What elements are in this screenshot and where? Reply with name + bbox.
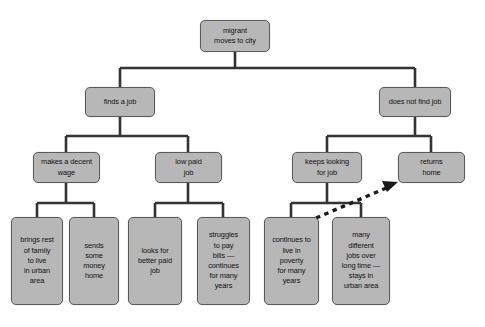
- node-label: low paid job: [173, 157, 203, 177]
- node-label: finds a job: [102, 97, 139, 107]
- node-makes-a-decent-wage[interactable]: makes a decent wage: [33, 152, 100, 183]
- node-label: many different jobs over long time — sta…: [340, 230, 382, 291]
- node-keeps-looking-for-job[interactable]: keeps looking for job: [292, 152, 362, 183]
- node-label: migrant moves to city: [212, 26, 258, 46]
- node-label: sends some money home: [81, 241, 107, 282]
- flow-chart-diagram: migrant moves to city finds a job does n…: [0, 0, 485, 327]
- node-label: struggles to pay bills — continues for m…: [206, 230, 241, 291]
- node-sends-some-money-home[interactable]: sends some money home: [69, 217, 119, 305]
- node-low-paid-job[interactable]: low paid job: [155, 152, 222, 183]
- node-migrant-moves-to-city[interactable]: migrant moves to city: [200, 20, 270, 52]
- node-label: does not find job: [387, 97, 444, 107]
- node-brings-rest-of-family[interactable]: brings rest of family to live in urban a…: [11, 217, 63, 305]
- node-label: continues to live in poverty for many ye…: [270, 235, 313, 286]
- dashed-arrow: [316, 181, 398, 218]
- node-label: brings rest of family to live in urban a…: [18, 235, 55, 286]
- node-finds-a-job[interactable]: finds a job: [85, 87, 155, 117]
- node-struggles-to-pay-bills[interactable]: struggles to pay bills — continues for m…: [197, 217, 250, 305]
- node-returns-home[interactable]: returns home: [398, 152, 465, 183]
- node-looks-for-better-paid-job[interactable]: looks for better paid job: [128, 217, 182, 305]
- node-does-not-find-job[interactable]: does not find job: [379, 87, 451, 117]
- node-label: keeps looking for job: [303, 157, 351, 177]
- node-label: looks for better paid job: [136, 246, 174, 277]
- node-many-different-jobs[interactable]: many different jobs over long time — sta…: [332, 217, 390, 305]
- node-label: makes a decent wage: [39, 157, 94, 177]
- node-continues-to-live-in-poverty[interactable]: continues to live in poverty for many ye…: [264, 217, 319, 305]
- node-label: returns home: [418, 157, 444, 177]
